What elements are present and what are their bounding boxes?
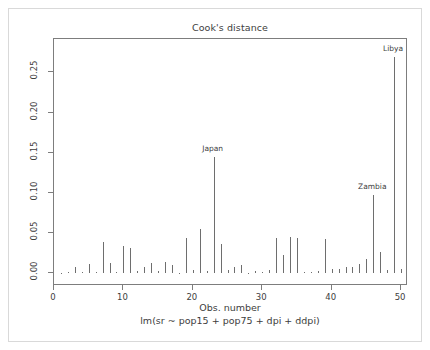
cooks-distance-bar xyxy=(172,265,173,273)
cooks-distance-bar xyxy=(394,57,395,273)
cooks-distance-bar xyxy=(325,239,326,273)
cooks-distance-bar xyxy=(359,264,360,273)
cooks-distance-bar xyxy=(346,267,347,273)
x-axis-label: Obs. number xyxy=(53,302,407,313)
cooks-distance-bar xyxy=(228,270,229,273)
cooks-distance-bar xyxy=(373,195,374,273)
cooks-distance-figure: Cook's distance Cook's distance 0.000.05… xyxy=(0,0,430,350)
cooks-distance-bar xyxy=(241,265,242,273)
cooks-distance-bar xyxy=(214,157,215,273)
y-tick-label: 0.05 xyxy=(0,226,44,236)
cooks-distance-bar xyxy=(318,271,319,273)
x-tick-label: 0 xyxy=(41,292,65,302)
x-tick-mark xyxy=(331,285,332,290)
x-tick-label: 20 xyxy=(180,292,204,302)
cooks-distance-bar xyxy=(103,242,104,273)
y-tick-label: 0.15 xyxy=(0,146,44,156)
cooks-distance-bar xyxy=(130,248,131,273)
cooks-distance-bar xyxy=(304,272,305,273)
x-tick-mark xyxy=(192,285,193,290)
cooks-distance-bar xyxy=(89,264,90,273)
bars-layer xyxy=(54,39,406,284)
cooks-distance-bar xyxy=(75,267,76,273)
cooks-distance-bar xyxy=(311,272,312,273)
cooks-distance-bar xyxy=(179,273,180,274)
cooks-distance-bar xyxy=(82,272,83,273)
point-label-libya: Libya xyxy=(383,44,403,53)
cooks-distance-bar xyxy=(401,269,402,273)
page-title: Cook's distance xyxy=(53,22,407,33)
cooks-distance-bar xyxy=(387,270,388,273)
cooks-distance-bar xyxy=(61,273,62,274)
x-tick-label: 40 xyxy=(319,292,343,302)
cooks-distance-bar xyxy=(110,263,111,273)
x-tick-mark xyxy=(261,285,262,290)
cooks-distance-bar xyxy=(186,238,187,273)
cooks-distance-bar xyxy=(137,271,138,273)
x-tick-label: 10 xyxy=(110,292,134,302)
cooks-distance-bar xyxy=(68,272,69,273)
cooks-distance-bar xyxy=(144,267,145,273)
cooks-distance-bar xyxy=(165,262,166,273)
y-tick-label: 0.10 xyxy=(0,186,44,196)
cooks-distance-bar xyxy=(96,272,97,273)
x-axis-sublabel: lm(sr ~ pop15 + pop75 + dpi + ddpi) xyxy=(43,315,417,326)
y-tick-label: 0.00 xyxy=(0,266,44,276)
plot-area xyxy=(53,38,407,285)
x-tick-mark xyxy=(53,285,54,290)
y-tick-label: 0.20 xyxy=(0,106,44,116)
cooks-distance-bar xyxy=(200,229,201,273)
cooks-distance-bar xyxy=(297,238,298,273)
cooks-distance-bar xyxy=(366,259,367,273)
cooks-distance-bar xyxy=(380,252,381,273)
cooks-distance-bar xyxy=(221,244,222,273)
x-tick-label: 50 xyxy=(388,292,412,302)
point-label-japan: Japan xyxy=(202,144,223,153)
cooks-distance-bar xyxy=(234,267,235,273)
cooks-distance-bar xyxy=(255,271,256,273)
cooks-distance-bar xyxy=(151,263,152,273)
cooks-distance-bar xyxy=(339,269,340,273)
cooks-distance-bar xyxy=(262,272,263,273)
cooks-distance-bar xyxy=(123,246,124,273)
cooks-distance-bar xyxy=(193,270,194,273)
cooks-distance-bar xyxy=(352,267,353,273)
cooks-distance-bar xyxy=(269,270,270,273)
cooks-distance-bar xyxy=(283,255,284,273)
x-tick-label: 30 xyxy=(249,292,273,302)
cooks-distance-bar xyxy=(290,237,291,273)
cooks-distance-bar xyxy=(248,273,249,274)
cooks-distance-bar xyxy=(332,269,333,273)
point-label-zambia: Zambia xyxy=(358,182,386,191)
y-tick-label: 0.25 xyxy=(0,65,44,75)
cooks-distance-bar xyxy=(276,238,277,273)
cooks-distance-bar xyxy=(158,271,159,273)
x-tick-mark xyxy=(400,285,401,290)
cooks-distance-bar xyxy=(116,272,117,273)
cooks-distance-bar xyxy=(207,271,208,273)
x-tick-mark xyxy=(122,285,123,290)
